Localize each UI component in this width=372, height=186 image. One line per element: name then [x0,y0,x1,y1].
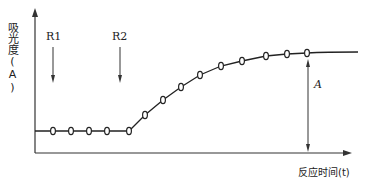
y-axis-arrow-icon [32,8,38,17]
x-axis-arrow-icon [343,150,352,156]
a-arrowhead-down-icon [306,144,310,152]
a-arrowhead-up-icon [306,59,310,67]
r1-label: R1 [46,30,61,43]
data-markers [51,49,310,134]
x-axis-label: 反应时间(t) [298,164,350,179]
r2-arrowhead-icon [118,75,122,83]
absorbance-chart [0,0,372,186]
r2-label: R2 [112,30,127,43]
r1-arrowhead-icon [51,75,55,83]
a-label: A [314,78,322,91]
y-axis-label: 吸光度(A) [5,22,19,94]
absorbance-curve [35,52,358,131]
